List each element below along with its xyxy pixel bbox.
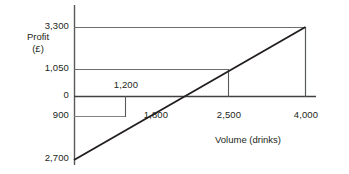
y-tick-label-3300: 3,300 (20, 21, 69, 32)
y-axis-title-line1: Profit (27, 31, 49, 42)
y-tick-label-minus2700: 2,700 (14, 153, 69, 164)
x-tick-label-2500: 2,500 (206, 110, 252, 121)
x-tick-label-1800: 1,800 (133, 110, 179, 121)
y-tick-label-0: 0 (20, 90, 69, 101)
x-tick-label-4000: 4,000 (283, 110, 329, 121)
y-axis-title-line2: (£) (32, 43, 44, 54)
y-tick-label-minus900: 900 (20, 110, 69, 121)
y-axis-title: Profit (£) (16, 31, 60, 55)
x-axis-title: Volume (drinks) (193, 134, 303, 146)
profit-volume-chart: Profit (£) 3,300 1,050 0 900 2,700 1,200… (0, 0, 349, 174)
x-tick-label-1200: 1,200 (103, 80, 149, 91)
y-tick-label-1050: 1,050 (20, 63, 69, 74)
